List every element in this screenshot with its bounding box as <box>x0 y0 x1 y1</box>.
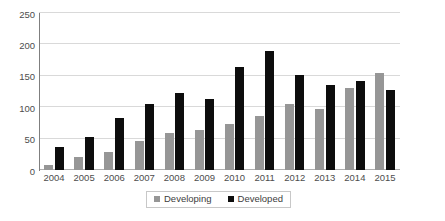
bar-chart: 050100150200250 200420052006200720082009… <box>0 0 445 221</box>
bar-developed-2013[interactable] <box>326 85 335 170</box>
square-swatch-black-icon <box>228 196 234 202</box>
bar-group-2015 <box>370 13 400 170</box>
bar-developing-2012[interactable] <box>285 104 294 170</box>
bar-group-2007 <box>129 13 159 170</box>
bar-developing-2010[interactable] <box>225 124 234 170</box>
bar-developed-2015[interactable] <box>386 90 395 170</box>
y-tick-label-100: 100 <box>1 104 35 114</box>
bar-group-2010 <box>220 13 250 170</box>
bar-developing-2007[interactable] <box>135 141 144 170</box>
bar-developing-2009[interactable] <box>195 130 204 170</box>
bar-developing-2005[interactable] <box>74 157 83 170</box>
x-tick-label-2013: 2013 <box>310 172 340 183</box>
bar-developing-2006[interactable] <box>104 152 113 170</box>
bar-developing-2013[interactable] <box>315 109 324 170</box>
bar-developed-2004[interactable] <box>55 147 64 170</box>
x-tick-label-2014: 2014 <box>340 172 370 183</box>
x-tick-label-2012: 2012 <box>280 172 310 183</box>
y-tick-label-0: 0 <box>1 167 35 177</box>
bar-group-2013 <box>310 13 340 170</box>
bar-developed-2008[interactable] <box>175 93 184 170</box>
bar-developed-2007[interactable] <box>145 104 154 170</box>
x-tick-label-2004: 2004 <box>39 172 69 183</box>
x-tick-label-2007: 2007 <box>129 172 159 183</box>
bar-group-2011 <box>250 13 280 170</box>
x-tick-label-2008: 2008 <box>159 172 189 183</box>
square-swatch-gray-icon <box>154 196 160 202</box>
bar-developing-2008[interactable] <box>165 133 174 170</box>
y-tick-label-50: 50 <box>1 135 35 145</box>
bar-developed-2006[interactable] <box>115 118 124 170</box>
y-axis: 050100150200250 <box>0 13 35 171</box>
bar-group-2004 <box>39 13 69 170</box>
bar-developing-2015[interactable] <box>375 73 384 170</box>
bar-developed-2009[interactable] <box>205 99 214 170</box>
bar-developing-2014[interactable] <box>345 88 354 170</box>
bar-developed-2014[interactable] <box>356 81 365 170</box>
x-tick-label-2015: 2015 <box>370 172 400 183</box>
x-tick-label-2006: 2006 <box>99 172 129 183</box>
bar-developed-2012[interactable] <box>295 75 304 170</box>
bar-developed-2005[interactable] <box>85 137 94 170</box>
x-axis: 2004200520062007200820092010201120122013… <box>39 172 400 186</box>
bar-group-2005 <box>69 13 99 170</box>
legend-label: Developing <box>164 194 212 204</box>
legend-item-developing[interactable]: Developing <box>154 194 212 204</box>
x-tick-label-2005: 2005 <box>69 172 99 183</box>
y-tick-label-250: 250 <box>1 10 35 20</box>
y-tick-label-200: 200 <box>1 41 35 51</box>
y-tick-label-150: 150 <box>1 72 35 82</box>
x-tick-label-2011: 2011 <box>250 172 280 183</box>
chart-legend: DevelopingDeveloped <box>146 191 291 208</box>
bar-group-2014 <box>340 13 370 170</box>
x-tick-label-2009: 2009 <box>189 172 219 183</box>
bar-group-2012 <box>280 13 310 170</box>
bar-group-2008 <box>159 13 189 170</box>
bar-developing-2004[interactable] <box>44 165 53 170</box>
bar-developing-2011[interactable] <box>255 116 264 170</box>
bars-layer <box>39 13 400 170</box>
bar-group-2009 <box>189 13 219 170</box>
legend-item-developed[interactable]: Developed <box>228 194 283 204</box>
bar-developed-2010[interactable] <box>235 67 244 170</box>
legend-label: Developed <box>238 194 283 204</box>
x-tick-label-2010: 2010 <box>220 172 250 183</box>
bar-developed-2011[interactable] <box>265 51 274 170</box>
bar-group-2006 <box>99 13 129 170</box>
